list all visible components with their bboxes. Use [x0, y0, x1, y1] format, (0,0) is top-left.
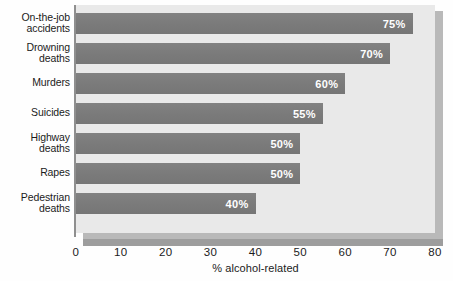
bar-row: Murders60%	[0, 68, 453, 98]
x-axis-ticks: 01020304050607080	[0, 246, 453, 262]
category-label: Rapes	[0, 158, 70, 188]
bar-row: Drowningdeaths70%	[0, 38, 453, 68]
bar: 55%	[76, 103, 323, 124]
bar-value-label: 70%	[360, 48, 383, 60]
category-label: Drowningdeaths	[0, 38, 70, 68]
bar: 70%	[76, 43, 390, 64]
category-label-line: Rapes	[40, 167, 70, 179]
bar-value-label: 50%	[270, 138, 293, 150]
bar-row: Rapes50%	[0, 158, 453, 188]
x-tick-label: 50	[294, 246, 308, 258]
category-label-line: Murders	[32, 77, 70, 89]
bar-value-label: 40%	[226, 198, 249, 210]
category-label: Suicides	[0, 98, 70, 128]
category-label-line: Suicides	[31, 107, 70, 119]
x-tick-label: 40	[249, 246, 263, 258]
category-label-line: deaths	[39, 203, 70, 215]
x-axis-baseline	[83, 239, 443, 246]
x-tick-label: 80	[428, 246, 442, 258]
x-tick-label: 70	[383, 246, 397, 258]
bar-rows: On-the-jobaccidents75%Drowningdeaths70%M…	[0, 0, 453, 237]
category-label-line: deaths	[39, 143, 70, 155]
x-tick-label: 10	[114, 246, 128, 258]
bar-value-label: 60%	[315, 78, 338, 90]
category-label: Highwaydeaths	[0, 128, 70, 158]
bar-row: Highwaydeaths50%	[0, 128, 453, 158]
category-label: Pedestriandeaths	[0, 188, 70, 218]
x-tick-label: 20	[159, 246, 173, 258]
bar-value-label: 75%	[383, 18, 406, 30]
bar-row: Suicides55%	[0, 98, 453, 128]
bar-row: Pedestriandeaths40%	[0, 188, 453, 218]
bar-value-label: 50%	[270, 168, 293, 180]
bar-chart: On-the-jobaccidents75%Drowningdeaths70%M…	[0, 0, 453, 281]
category-label: Murders	[0, 68, 70, 98]
bar-value-label: 55%	[293, 108, 316, 120]
bar: 50%	[76, 163, 300, 184]
x-tick-label: 60	[338, 246, 352, 258]
bar-row: On-the-jobaccidents75%	[0, 8, 453, 38]
bar: 50%	[76, 133, 300, 154]
bar: 40%	[76, 193, 256, 214]
category-label-line: deaths	[39, 53, 70, 65]
x-tick-label: 30	[204, 246, 218, 258]
bar: 75%	[76, 13, 413, 34]
x-axis-title: % alcohol-related	[76, 262, 435, 274]
x-tick-label: 0	[73, 246, 80, 258]
category-label-line: accidents	[27, 23, 70, 35]
category-label: On-the-jobaccidents	[0, 8, 70, 38]
bar: 60%	[76, 73, 345, 94]
